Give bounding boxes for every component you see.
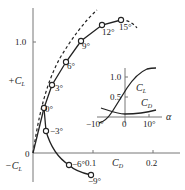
point-label-3: 3° bbox=[55, 83, 64, 93]
inset-tick-label-1-0: 1.0 bbox=[110, 72, 122, 82]
y-tick-label-1-0: 1.0 bbox=[15, 37, 27, 47]
dashed-envelope-curve bbox=[33, 10, 97, 153]
polar-point-minus6 bbox=[66, 162, 71, 167]
inset-tick-label-10: 10° bbox=[143, 119, 156, 129]
y-tick-label-0: 0 bbox=[25, 149, 30, 159]
point-label-12: 12° bbox=[102, 27, 115, 37]
y-axis-label-positive: +CL bbox=[8, 75, 25, 87]
inset-cl-label: CL bbox=[136, 82, 147, 94]
inset-cl-curve bbox=[99, 68, 156, 123]
point-label-6: 6° bbox=[67, 61, 76, 71]
inset-tick-label-0: 0 bbox=[122, 119, 127, 129]
point-label-15: 15° bbox=[119, 22, 132, 32]
x-axis-label: CD bbox=[112, 157, 124, 169]
lift-drag-polar-chart: 1.0 0 0.1 0.2 +CL −CL CD −9° −6° −3° 0° … bbox=[0, 0, 185, 190]
x-tick-label-0-2: 0.2 bbox=[146, 158, 157, 168]
inset-chart: 1.0 0.5 −10° 0 10° α CL CD bbox=[86, 68, 172, 129]
point-label-9: 9° bbox=[82, 41, 91, 51]
y-axis-label-negative: −CL bbox=[5, 160, 22, 172]
polar-origin-segment bbox=[33, 108, 44, 153]
inset-cd-label: CD bbox=[141, 97, 153, 109]
inset-tick-label-minus10: −10° bbox=[86, 119, 104, 129]
polar-point-3 bbox=[49, 82, 54, 87]
x-tick-label-0-1: 0.1 bbox=[85, 158, 96, 168]
inset-alpha-label: α bbox=[166, 111, 172, 122]
point-label-0: 0° bbox=[45, 104, 54, 114]
point-label-minus3: −3° bbox=[50, 126, 64, 136]
point-label-minus6: −6° bbox=[72, 159, 86, 169]
point-label-minus9: −9° bbox=[88, 176, 102, 186]
inset-tick-label-0-5: 0.5 bbox=[110, 92, 122, 102]
polar-point-minus3 bbox=[43, 128, 48, 133]
